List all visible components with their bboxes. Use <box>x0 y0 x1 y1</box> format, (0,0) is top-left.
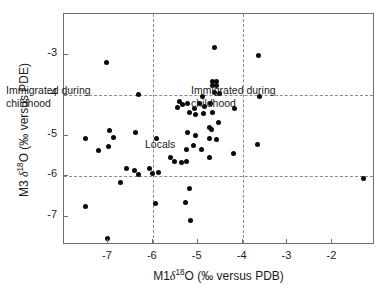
y-axis-tick-label: -3 <box>33 46 57 58</box>
data-point <box>183 200 188 205</box>
x-axis-tick-label: -3 <box>271 249 301 261</box>
x-axis-tick <box>107 239 108 244</box>
data-point <box>136 172 141 177</box>
superscript-18: 18 <box>175 268 184 277</box>
x-axis-tick-label: -5 <box>182 249 212 261</box>
data-point <box>214 137 219 142</box>
data-point <box>124 166 129 171</box>
y-axis-tick-label: -6 <box>33 167 57 179</box>
y-axis-tick-label: -5 <box>33 127 57 139</box>
x-axis-tick <box>197 239 198 244</box>
data-point <box>231 151 236 156</box>
reference-line-vertical-0 <box>153 14 154 243</box>
data-point <box>210 110 215 115</box>
data-point <box>83 204 88 209</box>
data-layer <box>64 14 373 243</box>
data-point <box>150 171 155 176</box>
data-point <box>187 186 192 191</box>
reference-line-horizontal-1 <box>64 176 373 177</box>
x-axis-tick <box>286 239 287 244</box>
data-point <box>172 159 177 164</box>
data-point <box>184 147 189 152</box>
x-axis-title-text: M1δ18O (‰ versus PDB) <box>153 269 284 283</box>
data-point <box>111 135 116 140</box>
data-point <box>255 142 260 147</box>
data-point <box>201 111 206 116</box>
data-point <box>193 133 198 138</box>
delta-symbol: δ <box>17 171 31 177</box>
data-point <box>185 101 190 106</box>
data-point <box>184 159 189 164</box>
data-point <box>199 147 204 152</box>
data-point <box>153 201 158 206</box>
data-point <box>156 170 161 175</box>
data-point <box>191 143 196 148</box>
plot-area <box>63 13 374 244</box>
y-axis-title: M3 δ18O (‰ versus PDE) <box>16 20 32 240</box>
data-point <box>256 53 261 58</box>
y-axis-title-text: M3 δ18O (‰ versus PDE) <box>17 63 31 197</box>
data-point <box>188 218 193 223</box>
y-axis-tick <box>63 54 68 55</box>
x-axis-tick-label: -7 <box>92 249 122 261</box>
data-point <box>207 136 212 141</box>
data-point <box>175 105 180 110</box>
y-axis-tick <box>63 175 68 176</box>
data-point <box>133 130 138 135</box>
data-point <box>193 112 198 117</box>
data-point <box>106 144 111 149</box>
data-point <box>107 128 112 133</box>
data-point <box>118 180 123 185</box>
x-axis-tick <box>152 239 153 244</box>
y-axis-tick <box>63 135 68 136</box>
annotation-locals: Locals <box>145 138 175 151</box>
data-point <box>216 120 221 125</box>
data-point <box>185 130 190 135</box>
x-axis-tick <box>331 239 332 244</box>
data-point <box>136 92 141 97</box>
superscript-18: 18 <box>16 162 25 171</box>
data-point <box>212 45 217 50</box>
data-point <box>104 60 109 65</box>
reference-line-vertical-1 <box>243 14 244 243</box>
x-axis-title: M1δ18O (‰ versus PDB) <box>63 268 374 284</box>
x-axis-tick <box>242 239 243 244</box>
data-point <box>187 110 192 115</box>
x-axis-tick-label: -2 <box>316 249 346 261</box>
data-point <box>361 176 366 181</box>
annotation-right-immigrated: Immigrated during childhood <box>191 84 276 109</box>
x-axis-tick-label: -6 <box>137 249 167 261</box>
data-point <box>96 148 101 153</box>
scatter-plot-figure: -7-6-5-4-3-2-3-4-5-6-7 Immigrated during… <box>0 0 391 301</box>
y-axis-tick-label: -7 <box>33 208 57 220</box>
data-point <box>83 136 88 141</box>
y-axis-tick <box>63 216 68 217</box>
data-point <box>209 127 214 132</box>
data-point <box>207 155 212 160</box>
x-axis-tick-label: -4 <box>227 249 257 261</box>
